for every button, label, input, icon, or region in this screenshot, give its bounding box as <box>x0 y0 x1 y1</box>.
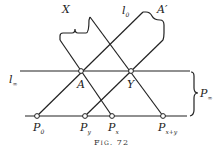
label-px: Px <box>108 122 119 135</box>
label-p0: P0 <box>33 122 44 135</box>
point-pxy <box>161 114 166 119</box>
point-px <box>110 114 115 119</box>
label-l-infinity: l∞ <box>9 74 18 87</box>
label-l0: l0 <box>122 5 129 18</box>
brace-a-prime <box>143 12 164 40</box>
brace-p-infinity <box>190 72 198 116</box>
line-l0 <box>37 12 143 116</box>
label-y: Y <box>127 79 134 90</box>
label-pxy: Px+y <box>158 122 177 135</box>
line-x-a-px <box>60 40 112 116</box>
label-a: A <box>77 79 85 90</box>
figure-caption: Fig. 72 <box>94 138 129 147</box>
label-p-infinity: P∞ <box>200 88 212 101</box>
point-y <box>129 69 134 74</box>
point-py <box>83 114 88 119</box>
point-p0 <box>35 114 40 119</box>
line-py-y <box>85 40 163 116</box>
point-a <box>79 69 84 74</box>
label-a-prime: A′ <box>157 4 167 15</box>
label-x: X <box>62 4 70 15</box>
brace-x <box>60 17 90 40</box>
label-py: Py <box>80 122 91 135</box>
